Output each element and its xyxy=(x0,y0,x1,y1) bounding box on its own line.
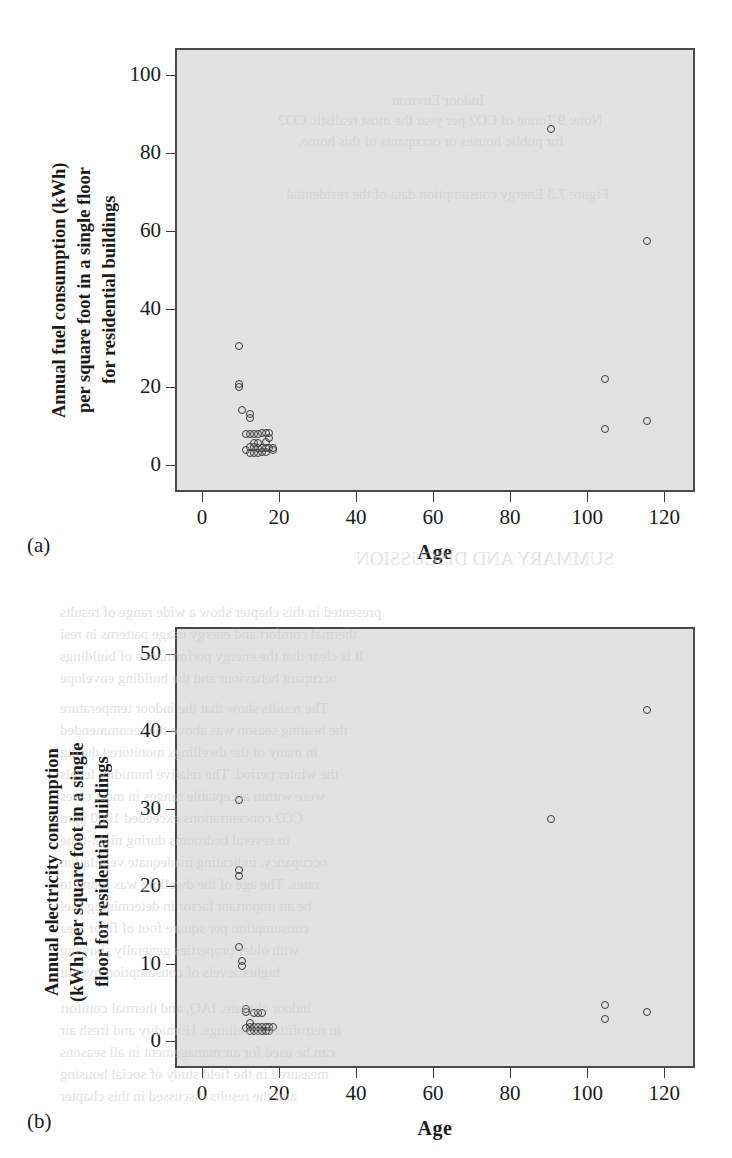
y-tick-label: 40 xyxy=(140,718,161,742)
x-tick-label: 60 xyxy=(403,1081,463,1106)
x-tick-label: 80 xyxy=(480,505,540,530)
data-point xyxy=(601,425,609,433)
x-tick-mark xyxy=(202,1068,203,1078)
x-tick-mark xyxy=(279,1068,280,1078)
y-tick-mark xyxy=(166,153,175,154)
data-point xyxy=(601,1015,609,1023)
x-tick-mark xyxy=(664,492,665,502)
x-tick-label: 100 xyxy=(557,505,617,530)
y-tick-mark xyxy=(166,731,175,732)
panel-label-b: (b) xyxy=(27,1109,52,1134)
data-point xyxy=(235,342,243,350)
y-tick-label: 0 xyxy=(151,1028,162,1052)
y-tick-label: 80 xyxy=(140,140,161,164)
y-tick-mark xyxy=(166,231,175,232)
y-axis-title-a: Annual fuel consumption (kWh) per square… xyxy=(47,100,122,480)
data-point xyxy=(238,962,246,970)
y-tick-label: 30 xyxy=(140,796,161,820)
data-point xyxy=(265,1027,273,1035)
plot-area-b xyxy=(175,627,695,1068)
y-tick-label: 20 xyxy=(140,873,161,897)
data-point xyxy=(601,1001,609,1009)
data-point xyxy=(235,796,243,804)
x-tick-label: 0 xyxy=(172,1081,232,1106)
y-tick-label: 60 xyxy=(140,218,161,242)
x-tick-label: 120 xyxy=(634,505,694,530)
data-point xyxy=(643,237,651,245)
y-tick-mark xyxy=(166,465,175,466)
x-tick-mark xyxy=(279,492,280,502)
y-tick-mark xyxy=(166,809,175,810)
x-tick-mark xyxy=(587,1068,588,1078)
data-point xyxy=(601,375,609,383)
figure-panel-b: Annual electricity consumption (kWh) per… xyxy=(0,578,732,1158)
y-tick-mark xyxy=(166,654,175,655)
x-axis-title-a: Age xyxy=(418,541,453,564)
data-point xyxy=(547,125,555,133)
x-tick-mark xyxy=(433,492,434,502)
x-tick-label: 0 xyxy=(172,505,232,530)
data-point xyxy=(235,943,243,951)
x-axis-title-b: Age xyxy=(418,1117,453,1140)
x-tick-label: 40 xyxy=(326,505,386,530)
data-point xyxy=(643,706,651,714)
y-tick-mark xyxy=(166,1041,175,1042)
x-tick-mark xyxy=(202,492,203,502)
y-tick-mark xyxy=(166,387,175,388)
x-tick-mark xyxy=(356,1068,357,1078)
data-point xyxy=(235,872,243,880)
y-tick-label: 10 xyxy=(140,951,161,975)
x-tick-label: 40 xyxy=(326,1081,386,1106)
plot-area-a xyxy=(175,48,695,492)
y-tick-label: 20 xyxy=(140,374,161,398)
x-tick-label: 100 xyxy=(557,1081,617,1106)
y-tick-label: 50 xyxy=(140,641,161,665)
x-tick-label: 60 xyxy=(403,505,463,530)
x-tick-mark xyxy=(510,492,511,502)
data-point xyxy=(246,414,254,422)
x-tick-label: 120 xyxy=(634,1081,694,1106)
y-tick-mark xyxy=(166,309,175,310)
figure-panel-a: Annual fuel consumption (kWh) per square… xyxy=(0,0,732,580)
data-point xyxy=(235,383,243,391)
y-tick-mark xyxy=(166,886,175,887)
data-point xyxy=(269,446,277,454)
x-tick-mark xyxy=(356,492,357,502)
y-axis-title-b: Annual electricity consumption (kWh) per… xyxy=(40,676,115,1068)
y-tick-label: 100 xyxy=(130,62,162,86)
y-tick-mark xyxy=(166,75,175,76)
x-tick-label: 20 xyxy=(249,1081,309,1106)
y-tick-label: 40 xyxy=(140,296,161,320)
y-tick-mark xyxy=(166,964,175,965)
data-point xyxy=(643,1008,651,1016)
x-tick-mark xyxy=(587,492,588,502)
x-tick-label: 20 xyxy=(249,505,309,530)
data-point xyxy=(643,417,651,425)
x-tick-mark xyxy=(664,1068,665,1078)
data-point xyxy=(547,815,555,823)
x-tick-mark xyxy=(433,1068,434,1078)
panel-label-a: (a) xyxy=(27,533,50,558)
y-tick-label: 0 xyxy=(151,452,162,476)
x-tick-label: 80 xyxy=(480,1081,540,1106)
x-tick-mark xyxy=(510,1068,511,1078)
data-point xyxy=(258,1009,266,1017)
